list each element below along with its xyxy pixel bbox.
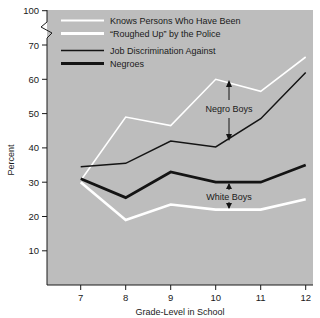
x-axis-title: Grade-Level in School [135, 307, 224, 317]
y-tick-label-50: 50 [28, 108, 39, 119]
chart-figure: 100 70 60 50 40 30 20 10 Percent 7 8 9 1… [0, 0, 320, 318]
legend-label-roughed-up: “Roughed Up” by the Police [110, 29, 221, 39]
y-tick-label-10: 10 [28, 245, 39, 256]
x-tick-label-12: 12 [300, 292, 311, 303]
x-axis: 7 8 9 10 11 12 Grade-Level in School [47, 285, 313, 317]
y-tick-label-40: 40 [28, 142, 39, 153]
y-axis-title: Percent [6, 144, 16, 176]
x-tick-label-9: 9 [168, 292, 173, 303]
legend-label-job-discrimination: Job Discrimination Against [110, 46, 216, 56]
x-tick-label-11: 11 [256, 292, 266, 303]
legend-label-negroes: Negroes [110, 59, 145, 69]
legend-label-knows-persons: Knows Persons Who Have Been [110, 16, 241, 26]
y-tick-label-100: 100 [23, 5, 39, 16]
x-tick-label-8: 8 [123, 292, 128, 303]
y-tick-label-70: 70 [28, 40, 39, 51]
x-tick-label-10: 10 [210, 292, 221, 303]
negro-boys-annotation-label: Negro Boys [205, 104, 253, 114]
y-tick-label-20: 20 [28, 211, 39, 222]
white-boys-annotation-label: White Boys [206, 192, 252, 202]
y-axis: 100 70 60 50 40 30 20 10 Percent [6, 5, 52, 285]
x-tick-label-7: 7 [78, 292, 83, 303]
y-tick-label-60: 60 [28, 74, 39, 85]
y-tick-label-30: 30 [28, 177, 39, 188]
line-chart: 100 70 60 50 40 30 20 10 Percent 7 8 9 1… [0, 0, 320, 318]
